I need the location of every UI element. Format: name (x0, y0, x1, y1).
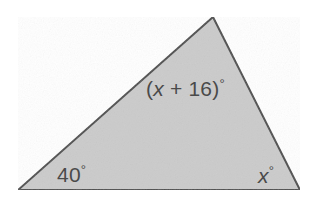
apex-variable: x (153, 77, 164, 100)
bottom-right-variable: x (258, 164, 269, 187)
apex-operator: + (164, 77, 189, 100)
figure-canvas: (x + 16)° 40° x° (0, 0, 313, 212)
bottom-left-value: 40 (57, 163, 81, 186)
apex-constant: 16 (188, 77, 212, 100)
degree-symbol-icon: ° (269, 163, 274, 178)
angle-label-apex: (x + 16)° (146, 77, 225, 99)
degree-symbol-icon: ° (81, 162, 86, 177)
angle-label-bottom-left: 40° (57, 163, 86, 185)
degree-symbol-icon: ° (219, 76, 224, 91)
angle-label-bottom-right: x° (258, 164, 274, 186)
